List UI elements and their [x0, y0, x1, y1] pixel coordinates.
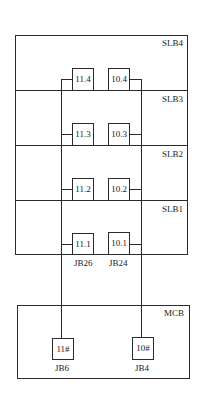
section-label-slb3: SLB3	[162, 95, 183, 104]
mcb-box-11: 11#	[52, 338, 74, 360]
label-jb26: JB26	[74, 259, 93, 268]
label-jb6: JB6	[55, 364, 69, 373]
stub-10-3	[129, 134, 141, 135]
stub-10-2	[129, 189, 141, 190]
mcb-label: MCB	[164, 309, 184, 318]
stub-11-4	[61, 79, 72, 80]
junction-box-11-4: 11.4	[72, 68, 94, 91]
stub-11-3	[61, 134, 72, 135]
junction-box-10-4: 10.4	[108, 68, 130, 91]
stub-10-1	[129, 244, 141, 245]
junction-box-10-2: 10.2	[108, 178, 130, 201]
divider-slb2-slb1	[15, 200, 188, 201]
junction-box-10-1: 10.1	[108, 232, 130, 255]
divider-slb4-slb3	[15, 90, 188, 91]
stub-10-4	[129, 79, 141, 80]
left-trunk-line	[61, 79, 62, 339]
label-jb24: JB24	[109, 259, 128, 268]
junction-box-11-2: 11.2	[72, 178, 94, 201]
stub-11-1	[61, 244, 72, 245]
section-label-slb2: SLB2	[162, 150, 183, 159]
junction-box-11-3: 11.3	[72, 123, 94, 146]
mcb-box-10: 10#	[132, 337, 154, 360]
right-trunk-line	[141, 79, 142, 338]
label-jb4: JB4	[135, 364, 149, 373]
junction-box-10-3: 10.3	[108, 123, 130, 146]
divider-slb3-slb2	[15, 145, 188, 146]
section-label-slb1: SLB1	[162, 205, 183, 214]
stub-11-2	[61, 189, 72, 190]
section-label-slb4: SLB4	[162, 39, 183, 48]
junction-box-11-1: 11.1	[72, 233, 94, 255]
